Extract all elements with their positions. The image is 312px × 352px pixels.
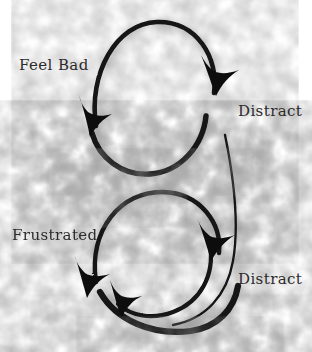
label-feel-bad: Feel Bad — [19, 58, 89, 73]
label-distract-lower: Distract — [238, 272, 302, 287]
label-distract-upper: Distract — [238, 104, 302, 119]
diagram-canvas: Feel Bad Distract Frustrated Distract — [0, 0, 312, 352]
label-frustrated: Frustrated — [12, 228, 98, 243]
vicious-cycle-illustration — [0, 0, 312, 352]
